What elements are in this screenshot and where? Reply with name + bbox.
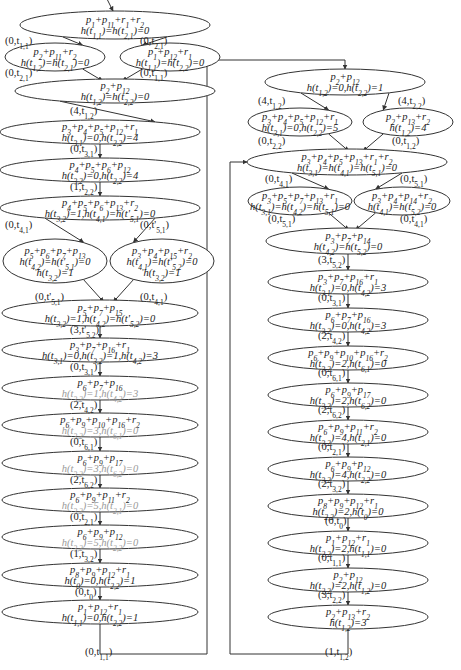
transition-label: (0,t5,1) — [400, 173, 428, 189]
clock-label: h(t1,2)=h(t2,2)=0 — [81, 91, 150, 107]
transition-label: (0,t2,1) — [5, 67, 33, 83]
transition-label: (0,t2,1) — [318, 441, 346, 457]
state-node: p6+p7+p16h(t3,2)=1,h(t4,2)=3 — [2, 376, 198, 404]
transition-arrow — [329, 134, 349, 151]
initial-arrow — [107, 0, 113, 11]
transition-label: (1,t3,2) — [70, 548, 98, 564]
state-node: p3+p4+p15+r2h(t4,1)=h(t'5,2)=0h(t3,2)=1 — [110, 239, 214, 283]
transition-arrow — [383, 93, 389, 110]
transition-label: (3,t'5,2) — [70, 324, 100, 340]
transition-label: (0,t3,1) — [70, 143, 98, 159]
state-node: p6+p9+p17h(t3,2)=3,h(t6,2)=0 — [2, 451, 198, 479]
transition-label: (0,t4,1) — [5, 219, 33, 235]
transition-arrow — [113, 280, 133, 302]
transition-arrow — [363, 134, 383, 151]
transition-label: (0,t4,1) — [265, 173, 293, 189]
state-node: p6+p9+p10+p16+r2h(t3,2)=3,h(t6,1)=0 — [2, 413, 198, 441]
state-node: p6+p9+p11+r2h(t3,2)=4,h(t2,1)=0 — [268, 420, 428, 448]
state-node: p6+p9+p10+p16+r2h(t3,2)=2,h(t6,1)=0 — [268, 346, 428, 374]
transition-label: (0,t1,1) — [85, 646, 113, 662]
state-node: p8+p9+p12+r1h(t0)=0,h(t2,2)=1 — [2, 563, 198, 591]
transition-label: (0,t0) — [75, 586, 97, 602]
transition-label: (0,t2,1) — [70, 511, 98, 527]
transition-label: (3,t2,2) — [318, 589, 346, 605]
state-node: p6+p7+p16h(t3,2)=0,h(t4,2)=3 — [268, 308, 428, 336]
transition-label: (0,t1,1) — [318, 552, 346, 568]
state-node: p3+p7+p14h(t4,2)=h(t5,2)=0 — [266, 228, 430, 257]
state-node: p2+p13+r2h(t1,2)=4 — [363, 108, 453, 138]
transition-label: (4,t1,2) — [70, 105, 98, 121]
transition-label: (0,t1,1) — [5, 35, 33, 51]
state-node: p6+p9+p11+r2h(t3,2)=5,h(t2,1)=0 — [2, 488, 198, 516]
state-node: p1+p12+r1h(t1,1)=h(t2,2)=0 — [120, 43, 220, 73]
transition-label: (0,t1,2) — [392, 135, 420, 151]
transition-label: (0,t3,1) — [318, 292, 346, 308]
transition-label: (0,t0) — [325, 515, 347, 531]
reachability-graph: p1+p11+r1+r2h(t1,1)=h(t2,1)=0p2+p11+r2h(… — [0, 0, 461, 670]
state-node: p5+p7+p15h(t3,2)=1,h(t4,2)=h(t'5,2)=0 — [2, 300, 198, 329]
transition-label: (0,t6,1) — [318, 367, 346, 383]
transition-arrow — [356, 213, 376, 230]
state-node: p4+p5+p6+p12h(t3,2)=0,h(t2,2)=4 — [0, 158, 200, 186]
state-node: p6+p9+p12h(t3,2)=4,h(t2,2)=0 — [268, 457, 428, 485]
state-node: p8+p9+p12+r1h(t2,2)=2,h(t0)=0 — [268, 494, 428, 522]
transition-label: (4,t1,2) — [258, 95, 286, 111]
state-node: p2+p12h(t1,2)=0,h(t2,2)=1 — [265, 69, 425, 98]
state-node: p6+p9+p17h(t3,2)=2,h(t6,2)=0 — [268, 383, 428, 411]
state-node: p1+p12+r1h(t2,2)=2,h(t1,1)=0 — [268, 531, 428, 559]
transition-label: (3,t5,2) — [318, 254, 346, 270]
transition-label: (0,t5,1) — [268, 213, 296, 229]
state-node: p3+p4+p5+p12+r1h(t3,1)=0,h(t2,2)=5 — [248, 108, 352, 138]
state-node: p6+p9+p12h(t3,2)=5,h(t2,2)=0 — [2, 525, 198, 553]
state-node: p2+p12h(t2,2)=2,h(t1,2)=0 — [268, 568, 428, 596]
state-node: p1+p12+r1h(t1,1)=0,h(t2,2)=1 — [2, 600, 198, 628]
transition-label: (2,t4,2) — [70, 399, 98, 415]
transition-label: (2,t4,2) — [318, 330, 346, 346]
transition-label: (0,t6,1) — [70, 436, 98, 452]
state-node: p3+p7+p16+r1h(t3,1)=0,h(t3,2)=1,h(t4,2)=… — [2, 338, 198, 366]
transition-arrow — [84, 280, 104, 302]
transition-label: (0,t2,2) — [258, 135, 286, 151]
state-node: p5+p6+p7+p13h(t4,2)=h(t'5,1)=0h(t3,2)=1 — [3, 239, 107, 283]
transition-label: (0,t4,1) — [400, 213, 428, 229]
state-node: p2+p12h(t1,2)=h(t2,2)=0 — [15, 79, 215, 107]
transition-label: (0,t'5,1) — [140, 219, 170, 235]
state-node: p3+p4+p5+p12+r1h(t3,1)=0,h(t2,2)=4 — [0, 120, 200, 148]
state-node: p1+p11+r1+r2h(t1,1)=h(t2,1)=0 — [20, 11, 210, 41]
transition-label: (2,t6,2) — [70, 474, 98, 490]
transition-label: (1,t2,2) — [70, 181, 98, 197]
transition-label: (2,t3,2) — [318, 478, 346, 494]
state-node: p3+p5+p7+p13+r1h(t3,1)=h(t4,2)=h(t5,1)=0 — [248, 187, 352, 217]
transition-label: (0,t3,1) — [70, 361, 98, 377]
state-node: p2+p13+r2h(t1,2)=3 — [268, 605, 428, 633]
state-node: p3+p7+p16+r1h(t3,1)=0,h(t4,2)=3 — [268, 270, 428, 298]
transition-label: (1,t1,2) — [325, 646, 353, 662]
transition-label: (2,t6,2) — [318, 404, 346, 420]
